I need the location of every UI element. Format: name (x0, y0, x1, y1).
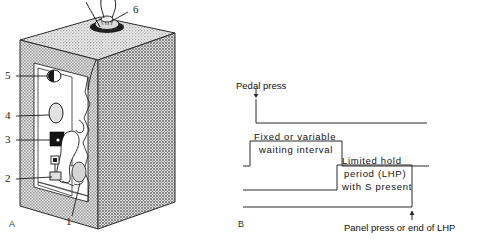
callout-3: 3 (5, 133, 11, 145)
label-waiting-interval-line1: Fixed or variable (254, 131, 336, 142)
label-lhp-line2: period (LHP) (344, 168, 406, 179)
panel-label-b: B (238, 219, 245, 229)
apparatus-drawing (0, 0, 232, 239)
element-4-response-panel (49, 103, 63, 123)
callout-1: 1 (66, 215, 72, 227)
label-waiting-interval-line2: waiting interval (259, 144, 333, 155)
panel-label-a: A (9, 219, 16, 229)
callout-6: 6 (133, 3, 139, 15)
trace-panel-press (243, 190, 412, 207)
panel-a-apparatus: 6 5 4 3 2 1 A (0, 0, 232, 239)
label-lhp-line3: with S present (342, 181, 412, 192)
callout-4: 4 (5, 109, 11, 121)
element-5-stimulus-aperture (47, 70, 61, 82)
panel-press-arrow-icon (410, 211, 415, 221)
label-pedal-press: Pedal press (236, 80, 286, 91)
trace-pedal-press (256, 99, 427, 123)
panel-b-timing-diagram: Pedal press Fixed or variable waiting in… (232, 0, 480, 239)
timing-diagram-traces (232, 0, 480, 239)
label-panel-press: Panel press or end of LHP (344, 222, 455, 233)
callout-5: 5 (5, 69, 11, 81)
label-lhp-line1: Limited hold (342, 155, 402, 166)
chamber-side-face (98, 33, 175, 229)
callout-2: 2 (5, 172, 11, 184)
figure-root: 6 5 4 3 2 1 A (0, 0, 480, 239)
